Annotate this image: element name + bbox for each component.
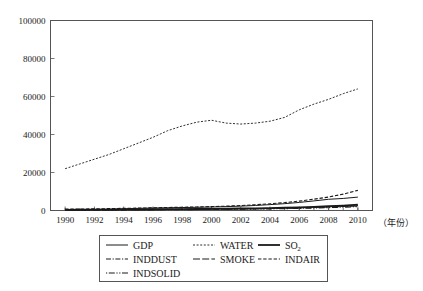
- y-tick-label: 40000: [23, 130, 46, 140]
- x-tick-label: 1994: [115, 215, 134, 225]
- x-axis-caption: （年份）: [378, 217, 414, 228]
- legend-label-indsolid: INDSOLID: [133, 268, 180, 279]
- chart-figure: 020000400006000080000100000 199019921994…: [0, 0, 423, 291]
- x-tick-label: 1998: [173, 215, 192, 225]
- y-axis: 020000400006000080000100000: [19, 16, 55, 216]
- x-tick-label: 1990: [56, 215, 75, 225]
- legend-label-so2-subscript: 2: [297, 245, 301, 253]
- plot-frame: [51, 21, 373, 211]
- y-tick-label: 20000: [23, 168, 46, 178]
- y-tick-label: 100000: [19, 16, 47, 26]
- x-tick-label: 2002: [232, 215, 250, 225]
- legend-label-smoke: SMOKE: [220, 254, 255, 265]
- x-tick-label: 2004: [261, 215, 280, 225]
- x-tick-label: 1996: [144, 215, 163, 225]
- x-tick-label: 1992: [85, 215, 103, 225]
- y-tick-label: 60000: [23, 92, 46, 102]
- x-tick-label: 2010: [349, 215, 368, 225]
- series-line-water: [65, 89, 358, 169]
- x-tick-label: 2000: [203, 215, 222, 225]
- legend-label-gdp: GDP: [133, 240, 153, 251]
- series-group: [65, 89, 358, 210]
- y-tick-label: 0: [41, 206, 46, 216]
- legend-label-indair: INDAIR: [285, 254, 320, 265]
- x-tick-label: 2006: [290, 215, 309, 225]
- legend-label-inddust: INDDUST: [133, 254, 177, 265]
- x-tick-label: 2008: [320, 215, 339, 225]
- y-tick-label: 80000: [23, 54, 46, 64]
- legend-label-so2: SO: [285, 240, 298, 251]
- legend-label-water: WATER: [220, 240, 254, 251]
